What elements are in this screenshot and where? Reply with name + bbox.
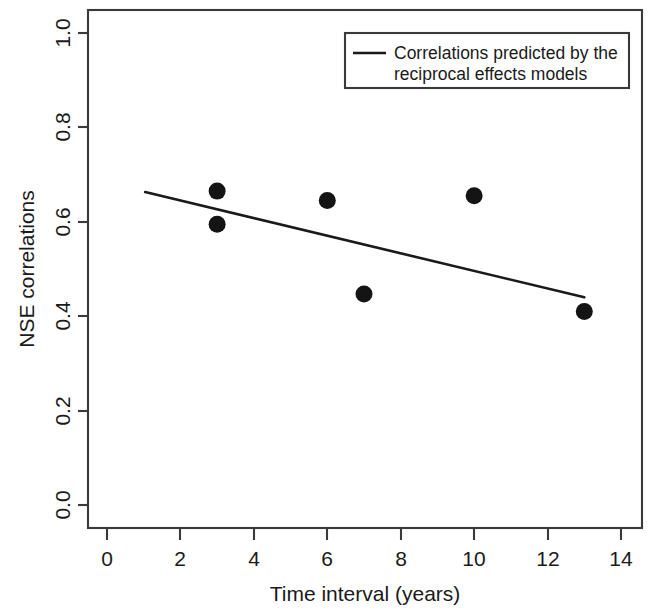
- y-tick-label-0.8: 0.8: [51, 112, 74, 141]
- x-axis-title: Time interval (years): [270, 582, 461, 605]
- x-tick-label-12: 12: [536, 547, 559, 570]
- y-tick-label-1.0: 1.0: [51, 18, 74, 47]
- x-tick-label-6: 6: [321, 547, 333, 570]
- x-tick-label-4: 4: [248, 547, 260, 570]
- y-axis-title: NSE correlations: [15, 190, 38, 348]
- data-point[interactable]: [576, 303, 593, 320]
- scatter-plot-svg: 1.0 0.8 0.6 0.4 0.2 0.0 NSE correlations…: [0, 0, 656, 612]
- x-tick-label-10: 10: [462, 547, 485, 570]
- y-tick-label-0.2: 0.2: [51, 396, 74, 425]
- y-tick-label-0.6: 0.6: [51, 207, 74, 236]
- data-point[interactable]: [466, 187, 483, 204]
- y-tick-label-0.4: 0.4: [51, 301, 74, 331]
- legend-label-line-1: Correlations predicted by the: [394, 43, 618, 63]
- x-tick-label-2: 2: [174, 547, 186, 570]
- figure-background: [0, 0, 656, 612]
- data-point[interactable]: [319, 192, 336, 209]
- legend: Correlations predicted by the reciprocal…: [345, 33, 629, 88]
- x-tick-label-14: 14: [609, 547, 633, 570]
- chart-figure: 1.0 0.8 0.6 0.4 0.2 0.0 NSE correlations…: [0, 0, 656, 612]
- data-point[interactable]: [356, 286, 373, 303]
- x-tick-label-8: 8: [395, 547, 407, 570]
- data-point[interactable]: [209, 216, 226, 233]
- x-tick-label-0: 0: [101, 547, 113, 570]
- legend-label-line-2: reciprocal effects models: [394, 64, 587, 84]
- data-point[interactable]: [209, 183, 226, 200]
- y-tick-label-0.0: 0.0: [51, 490, 74, 519]
